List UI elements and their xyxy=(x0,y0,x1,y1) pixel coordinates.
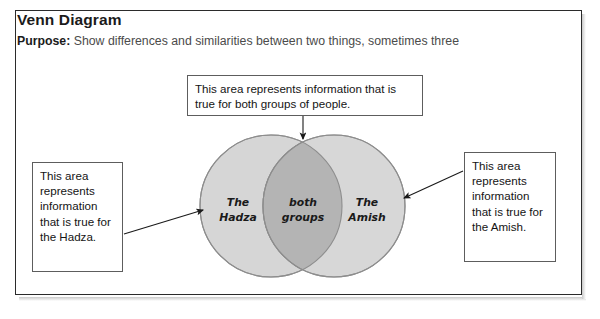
callout-intersection: This area represents information that is… xyxy=(187,75,423,116)
purpose-line: Purpose: Show differences and similariti… xyxy=(17,34,459,48)
callout-right-circle: This area represents information that is… xyxy=(464,152,556,262)
card-shadow-right xyxy=(582,14,586,299)
diagram-page: Venn Diagram Purpose: Show differences a… xyxy=(0,0,600,319)
purpose-text: Show differences and similarities betwee… xyxy=(74,34,459,48)
callout-left-circle: This area represents information that is… xyxy=(32,162,123,272)
purpose-label: Purpose: xyxy=(17,34,70,48)
page-title: Venn Diagram xyxy=(17,11,122,29)
card-shadow-bottom xyxy=(19,297,586,301)
